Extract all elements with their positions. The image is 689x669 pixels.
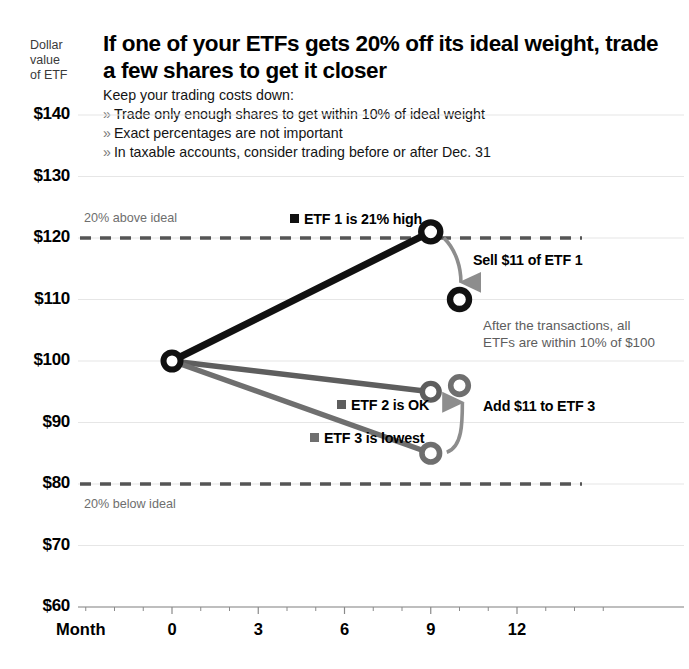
y-tick-label: $100 — [8, 350, 70, 370]
legend-swatch-etf1 — [290, 214, 299, 223]
y-tick-label: $80 — [8, 473, 70, 493]
y-tick-label: $60 — [8, 596, 70, 616]
series-label-etf2: ETF 2 is OK — [337, 397, 429, 413]
series-label-etf1: ETF 1 is 21% high — [290, 211, 422, 227]
summary-note: After the transactions, all ETFs are wit… — [483, 317, 655, 351]
y-tick-label: $130 — [8, 166, 70, 186]
y-tick-label: $140 — [8, 104, 70, 124]
band-label-above: 20% above ideal — [84, 211, 177, 225]
x-axis-title: Month — [56, 620, 105, 639]
series-label-etf1-text: ETF 1 is 21% high — [304, 211, 422, 227]
series-label-etf3-text: ETF 3 is lowest — [324, 430, 424, 446]
y-tick-label: $120 — [8, 227, 70, 247]
y-tick-label: $70 — [8, 535, 70, 555]
series-label-etf3: ETF 3 is lowest — [310, 430, 424, 446]
band-label-below: 20% below ideal — [84, 497, 176, 511]
legend-swatch-etf3 — [310, 433, 319, 442]
x-tick-label: 12 — [497, 620, 537, 639]
x-tick-label: 3 — [238, 620, 278, 639]
y-tick-label: $90 — [8, 412, 70, 432]
x-axis — [78, 607, 684, 614]
y-tick-label: $110 — [8, 289, 70, 309]
x-tick-label: 0 — [152, 620, 192, 639]
callout-add-etf3: Add $11 to ETF 3 — [483, 398, 595, 414]
x-tick-label: 6 — [325, 620, 365, 639]
transaction-arrows — [444, 238, 463, 452]
series-lines — [172, 232, 431, 453]
legend-swatch-etf2 — [337, 400, 346, 409]
series-label-etf2-text: ETF 2 is OK — [351, 397, 429, 413]
summary-note-line-2: ETFs are within 10% of $100 — [483, 334, 655, 351]
x-tick-label: 9 — [411, 620, 451, 639]
summary-note-line-1: After the transactions, all — [483, 317, 655, 334]
callout-sell-etf1: Sell $11 of ETF 1 — [473, 252, 582, 268]
